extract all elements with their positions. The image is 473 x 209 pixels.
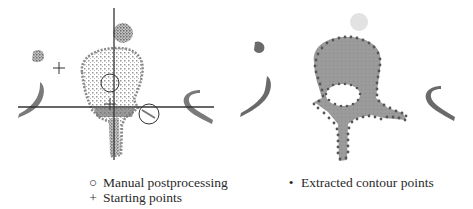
legend-label: Manual postprocessing bbox=[103, 175, 228, 190]
legend-label: Starting points bbox=[103, 190, 182, 205]
fragment-left-arc bbox=[240, 76, 271, 117]
starting-point-1 bbox=[53, 62, 65, 74]
dot-icon: • bbox=[284, 175, 298, 190]
canal-hole bbox=[326, 84, 360, 106]
legend-left: ○Manual postprocessing +Starting points bbox=[86, 175, 228, 205]
segmentation-input-figure bbox=[0, 0, 236, 170]
fragment-right-arc bbox=[426, 86, 455, 121]
faint-blob-top bbox=[350, 13, 368, 31]
circle-icon: ○ bbox=[86, 175, 100, 190]
fragment-left-arc bbox=[18, 82, 44, 118]
legend-item-extracted-contour-points: •Extracted contour points bbox=[284, 175, 434, 190]
fragment-left-top bbox=[254, 41, 264, 53]
blob-top bbox=[113, 23, 133, 43]
legend-item-manual-postprocessing: ○Manual postprocessing bbox=[86, 175, 228, 190]
left-panel-image bbox=[0, 0, 236, 170]
legend-label: Extracted contour points bbox=[301, 175, 434, 190]
fragment-left-top bbox=[32, 50, 44, 62]
legend-right: •Extracted contour points bbox=[284, 175, 434, 190]
plus-icon: + bbox=[86, 190, 100, 205]
right-panel-image bbox=[236, 0, 472, 170]
legend-item-starting-points: +Starting points bbox=[86, 190, 228, 205]
contour-points-figure bbox=[236, 0, 473, 170]
